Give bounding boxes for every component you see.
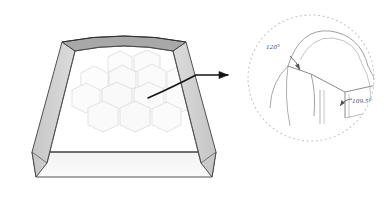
bubble-cell <box>152 102 181 132</box>
tray-front-wall <box>32 152 216 177</box>
annotation-109-label: 109.5° <box>352 97 372 105</box>
bubble-cell <box>88 101 118 132</box>
bubble-raft-illustration: 120° 109.5° <box>0 0 387 198</box>
figure-root: 120° 109.5° <box>0 0 387 198</box>
annotation-120-label: 120° <box>266 43 280 51</box>
bubble-cell <box>120 101 150 132</box>
inset-detail: 120° 109.5° <box>248 15 381 141</box>
arrow-head-icon <box>219 72 228 79</box>
